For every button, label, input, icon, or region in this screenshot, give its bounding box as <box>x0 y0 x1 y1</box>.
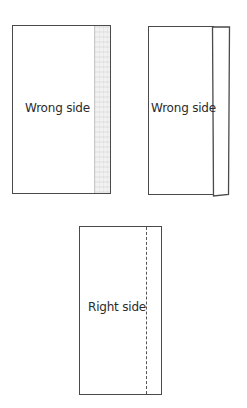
panel-3-label: Right side <box>88 300 146 314</box>
stitch-line <box>146 227 147 394</box>
sewing-diagram: Wrong side Wrong side Right side <box>0 0 247 408</box>
panel-2-label: Wrong side <box>151 101 216 115</box>
